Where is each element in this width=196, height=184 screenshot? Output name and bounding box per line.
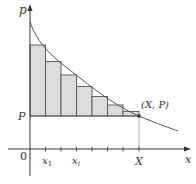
x1-label: x1 [42,155,52,168]
rectangle-3 [61,75,77,116]
riemann-rectangles [30,45,139,116]
y-axis-label: p [19,3,27,17]
x-end-label: X [134,155,144,168]
point-X-P [137,114,141,118]
consumer-surplus-diagram: p x 0 P (X, P) X x1 xi [0,0,196,184]
rectangle-4 [77,87,93,117]
rectangle-5 [92,97,108,117]
x-axis-label: x [185,153,192,166]
rectangle-1 [30,45,46,116]
x-axis-arrow-icon [184,147,191,152]
origin-label: 0 [20,150,27,163]
y-axis-arrow-icon [28,4,33,11]
price-label: P [17,110,26,123]
xi-label: xi [72,155,80,168]
point-label: (X, P) [141,99,169,110]
rectangle-2 [46,62,62,117]
